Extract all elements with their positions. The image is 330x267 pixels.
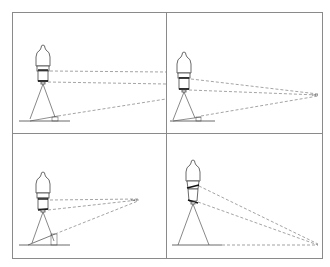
camera-icon [36, 172, 50, 212]
panel-top-left [19, 45, 166, 121]
sight-lines [198, 186, 318, 245]
ground-line [19, 116, 70, 121]
diagram-figure [0, 0, 330, 267]
tripod-icon [30, 84, 55, 119]
panel-top-right [170, 52, 318, 121]
panel-bottom-right [172, 160, 318, 245]
tripod-icon [178, 204, 209, 245]
ground-line [170, 117, 215, 121]
sight-lines [189, 79, 318, 116]
panel-frame [12, 12, 323, 259]
camera-icon [36, 45, 50, 84]
camera-icon [177, 52, 191, 92]
ground-line [19, 234, 70, 245]
camera-icon [186, 160, 200, 204]
sight-lines [48, 199, 138, 234]
tripod-icon [32, 212, 54, 243]
panel-bottom-left [19, 172, 139, 245]
sight-lines [48, 71, 166, 116]
tripod-icon [173, 92, 195, 120]
